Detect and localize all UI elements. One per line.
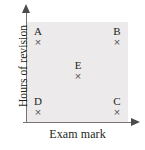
data-point-e: E ×: [67, 60, 89, 82]
cross-marker-icon: ×: [67, 71, 89, 82]
x-axis-line: [26, 122, 133, 123]
data-point-c: C ×: [106, 96, 128, 118]
cross-marker-icon: ×: [106, 107, 128, 118]
data-point-d: D ×: [27, 96, 49, 118]
data-point-a: A ×: [27, 26, 49, 48]
origin-tick-mark: [23, 122, 29, 123]
cross-marker-icon: ×: [27, 37, 49, 48]
data-point-b: B ×: [106, 26, 128, 48]
cross-marker-icon: ×: [27, 107, 49, 118]
scatter-plot-figure: Hours of revision Exam mark A × B × E × …: [0, 0, 145, 150]
x-axis-label: Exam mark: [27, 127, 128, 142]
x-axis-arrowhead-icon: [131, 118, 140, 126]
cross-marker-icon: ×: [106, 37, 128, 48]
